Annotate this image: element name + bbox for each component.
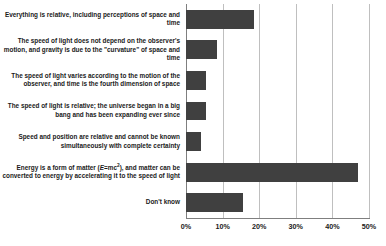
tick-label: 30% xyxy=(289,222,303,231)
bar xyxy=(186,132,201,151)
category-label: Everything is relative, including percep… xyxy=(0,4,180,35)
bar xyxy=(186,193,243,212)
category-label: The speed of light varies according to t… xyxy=(0,65,180,96)
plot-area xyxy=(186,4,369,218)
bar-row xyxy=(186,132,369,151)
tick-label: 40% xyxy=(325,222,339,231)
value-axis-tick-labels: 0%10%20%30%40%50% xyxy=(186,222,369,238)
gridline xyxy=(369,4,370,218)
bar xyxy=(186,10,254,29)
category-axis: Everything is relative, including percep… xyxy=(0,4,183,218)
bar-row xyxy=(186,71,369,90)
category-label: Speed and position are relative and cann… xyxy=(0,126,180,157)
tick-label: 0% xyxy=(181,222,191,231)
bar xyxy=(186,71,206,90)
bars-group xyxy=(186,4,369,218)
category-label: Energy is a form of matter (E=mc2), and … xyxy=(0,157,180,188)
category-label: The speed of light does not depend on th… xyxy=(0,35,180,66)
tick-label: 10% xyxy=(215,222,229,231)
bar xyxy=(186,163,358,182)
bar-chart: Everything is relative, including percep… xyxy=(0,0,386,246)
category-label: Don't know xyxy=(0,187,180,218)
bar-row xyxy=(186,163,369,182)
bar-row xyxy=(186,40,369,59)
bar-row xyxy=(186,10,369,29)
category-axis-line xyxy=(186,218,370,219)
bar-row xyxy=(186,193,369,212)
category-label: The speed of light is relative; the univ… xyxy=(0,96,180,127)
bar-row xyxy=(186,102,369,121)
tick-label: 20% xyxy=(252,222,266,231)
tick-label: 50% xyxy=(362,222,376,231)
bar xyxy=(186,102,206,121)
bar xyxy=(186,40,217,59)
